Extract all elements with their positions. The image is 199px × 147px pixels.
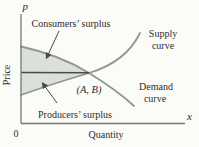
x-axis-symbol: x	[186, 110, 192, 122]
consumers-surplus-label: Consumers’ surplus	[32, 18, 111, 29]
supply-demand-diagram: p Price Consumers’ surplus Producers’ su…	[0, 0, 199, 147]
demand-curve-label-line1: Demand	[139, 81, 173, 92]
y-axis-symbol: p	[22, 0, 29, 12]
y-axis-title: Price	[1, 64, 12, 85]
equilibrium-point-label: (A, B)	[76, 84, 102, 96]
supply-curve-label-line1: Supply	[149, 28, 177, 39]
x-axis-title: Quantity	[89, 129, 124, 140]
producers-surplus-label: Producers’ surplus	[38, 109, 112, 120]
origin-label: 0	[14, 128, 19, 139]
supply-curve-label-line2: curve	[152, 40, 175, 51]
demand-curve-label-line2: curve	[144, 93, 167, 104]
